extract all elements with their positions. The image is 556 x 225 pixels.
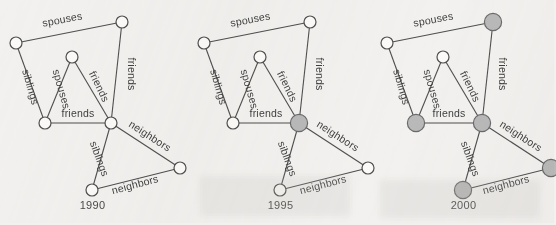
- graph-panel-1990: spousessiblingsspousesfriendsfriendsfrie…: [0, 0, 185, 223]
- edge-label-friends: friends: [433, 107, 466, 119]
- node-top-left-open: [198, 37, 210, 49]
- node-hub-open: [105, 117, 117, 129]
- node-bottom-filled: [454, 181, 471, 198]
- edge-label-friends: friends: [314, 58, 326, 91]
- edge-n1-n2: [204, 22, 310, 43]
- edge-label-siblings: siblings: [208, 68, 230, 107]
- edge-label-spouses: spouses: [41, 9, 83, 29]
- panel-year-label: 1990: [0, 199, 185, 211]
- edge-label-siblings: siblings: [20, 68, 42, 107]
- edge-n1-n2: [16, 22, 122, 43]
- edge-label-spouses: spouses: [50, 68, 73, 110]
- edge-label-friends: friends: [126, 58, 138, 91]
- node-apex-open: [437, 51, 449, 63]
- edge-n2-n5: [111, 22, 122, 123]
- edge-label-friends: friends: [497, 58, 509, 91]
- graph-canvas: spousessiblingsspousesfriendsfriendsfrie…: [0, 0, 185, 200]
- panel-year-label: 1995: [188, 199, 373, 211]
- node-right-filled: [542, 159, 556, 176]
- edge-label-spouses: spouses: [421, 68, 444, 110]
- node-right-open: [174, 162, 186, 174]
- edge-label-spouses: spouses: [412, 9, 454, 29]
- node-top-right-open: [116, 16, 128, 28]
- graph-panel-2000: spousessiblingsspousesfriendsfriendsfrie…: [371, 0, 556, 223]
- edge-label-siblings: siblings: [276, 139, 300, 178]
- node-left-mid-open: [39, 117, 51, 129]
- node-left-mid-filled: [407, 114, 424, 131]
- edge-label-neighbors: neighbors: [481, 172, 530, 196]
- edge-label-spouses: spouses: [229, 9, 271, 29]
- edge-label-neighbors: neighbors: [298, 172, 347, 196]
- edge-label-friends: friends: [62, 107, 95, 119]
- node-left-mid-open: [227, 117, 239, 129]
- node-bottom-open: [274, 184, 286, 196]
- node-apex-open: [66, 51, 78, 63]
- edge-label-friends: friends: [458, 69, 483, 104]
- edge-n1-n2: [387, 22, 493, 43]
- node-hub-filled: [290, 114, 307, 131]
- node-apex-open: [254, 51, 266, 63]
- node-top-left-open: [381, 37, 393, 49]
- edge-label-spouses: spouses: [238, 68, 261, 110]
- edge-label-siblings: siblings: [88, 139, 112, 178]
- edge-n2-n5: [299, 22, 310, 123]
- node-hub-filled: [473, 114, 490, 131]
- graph-panel-1995: spousessiblingsspousesfriendsfriendsfrie…: [188, 0, 373, 223]
- edge-label-siblings: siblings: [391, 68, 413, 107]
- edge-label-neighbors: neighbors: [110, 172, 159, 196]
- node-bottom-open: [86, 184, 98, 196]
- edge-label-siblings: siblings: [459, 139, 483, 178]
- graph-canvas: spousessiblingsspousesfriendsfriendsfrie…: [188, 0, 373, 200]
- edge-label-friends: friends: [87, 69, 112, 104]
- edge-label-friends: friends: [250, 107, 283, 119]
- node-top-right-open: [304, 16, 316, 28]
- node-top-left-open: [10, 37, 22, 49]
- edge-n2-n5: [482, 22, 493, 123]
- edge-label-friends: friends: [275, 69, 300, 104]
- node-top-right-filled: [484, 13, 501, 30]
- panel-year-label: 2000: [371, 199, 556, 211]
- graph-canvas: spousessiblingsspousesfriendsfriendsfrie…: [371, 0, 556, 200]
